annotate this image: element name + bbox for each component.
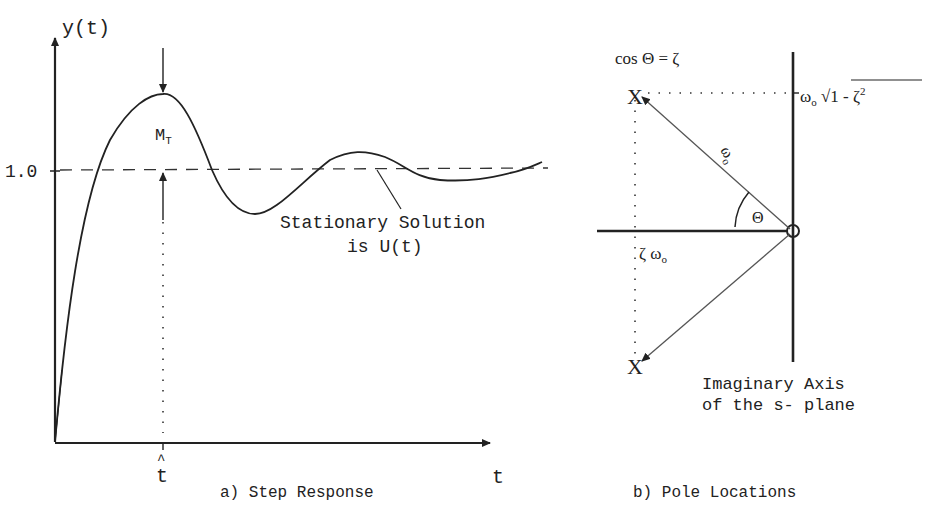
annotation-line-2: is U(t) [347,237,423,257]
stationary-solution-line [60,168,548,170]
imag-part-label: ωo √1 - ζ2 [800,85,866,108]
real-part-label: ζ ωo [639,244,667,265]
cos-theta-relation: cos Θ = ζ [615,49,679,68]
axis-note-line-1: Imaginary Axis [702,375,845,394]
pole-locations-panel: cos Θ = ζ X X ωo √1 - ζ2 ωo Θ ζ ωo Imagi… [597,49,922,502]
annotation-line-1: Stationary Solution [280,213,485,233]
angle-arc [735,192,749,227]
step-response-panel: y(t) t 1.0 MT ^ t Stationary Solution is… [5,17,548,502]
lower-pole-marker: X [627,354,643,379]
axis-note-line-2: of the s- plane [702,396,855,415]
peak-time-label: t [156,465,168,488]
vector-magnitude-label: ωo [715,143,741,167]
upper-pole-vector [642,97,790,229]
figure-canvas: y(t) t 1.0 MT ^ t Stationary Solution is… [0,0,935,510]
angle-theta-label: Θ [752,209,764,226]
panel-a-caption: a) Step Response [220,484,374,502]
panel-b-caption: b) Pole Locations [633,484,796,502]
y-axis-label: y(t) [62,17,110,40]
x-axis-label: t [492,466,504,489]
peak-overshoot-label: MT [155,126,172,147]
step-response-curve [55,94,542,442]
upper-pole-marker: X [627,84,643,109]
y-tick-label: 1.0 [5,162,37,182]
annotation-leader [377,170,401,209]
